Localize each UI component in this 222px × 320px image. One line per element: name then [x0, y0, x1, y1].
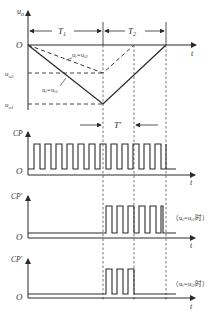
cp2-origin-label: O: [16, 292, 23, 302]
u01-label: uo1: [5, 101, 14, 110]
dual-slope-timing-diagram: uo t O T1 T2 uo2 uo1 ui: [0, 0, 222, 320]
cp2-axis-label: CP′: [11, 255, 23, 264]
cp2-condition-note: （ui=ui2时）: [172, 279, 209, 288]
curve-ui2-leader: [66, 58, 72, 60]
time-guides: [103, 45, 166, 300]
integrator-curve-ui1: [28, 45, 166, 104]
curve-ui2-label: ui=ui2: [72, 51, 88, 59]
gate-interval-marker: T′: [80, 120, 158, 130]
clock-cp-panel: CP t O: [13, 129, 195, 187]
curve-ui1-label: ui=ui1: [42, 86, 58, 94]
cp-waveform: [28, 144, 176, 169]
cp2-x-axis-label: t: [190, 302, 193, 311]
integrator-output-panel: uo t O T1 T2 uo2 uo1 ui: [5, 7, 196, 110]
t1-label: T1: [58, 26, 66, 37]
cp1-x-axis-label: t: [190, 241, 193, 250]
integrator-curve-ui2: [28, 45, 134, 73]
gated-cp-panel-ui1: CP′ t O （ui=ui1时）: [11, 192, 209, 250]
uo-origin-label: O: [16, 40, 23, 50]
t2-label: T2: [128, 26, 136, 37]
cp2-waveform: [28, 269, 176, 294]
gated-cp-panel-ui2: CP′ t O （ui=ui2时）: [11, 255, 209, 311]
cp-origin-label: O: [16, 166, 23, 176]
cp-axis-label: CP: [13, 129, 23, 138]
tprime-label: T′: [114, 120, 122, 130]
u02-label: uo2: [5, 70, 14, 79]
cp1-origin-label: O: [16, 232, 23, 242]
cp1-axis-label: CP′: [11, 192, 23, 201]
cp1-waveform: [28, 206, 176, 233]
curve-ui1-leader: [60, 78, 66, 86]
cp-x-axis-label: t: [190, 178, 193, 187]
uo-axis-label: uo: [17, 7, 24, 17]
cp1-condition-note: （ui=ui1时）: [172, 213, 209, 222]
uo-x-axis-label: t: [191, 49, 194, 58]
